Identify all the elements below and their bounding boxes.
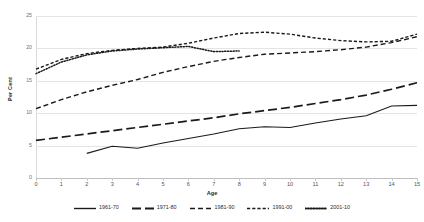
- series-line-1991-00: [36, 32, 417, 69]
- legend-label: 2001-10: [330, 205, 350, 210]
- legend-item-1961-70[interactable]: 1961-70: [74, 205, 119, 210]
- legend-label: 1971-80: [157, 205, 177, 210]
- legend-label: 1991-00: [272, 205, 292, 210]
- legend-swatch-icon: [132, 206, 154, 210]
- series-line-1981-90: [36, 37, 417, 109]
- series-line-2001-10: [36, 46, 239, 73]
- chart-legend: 1961-701971-801981-901991-002001-10: [0, 205, 424, 210]
- legend-item-2001-10[interactable]: 2001-10: [305, 205, 350, 210]
- legend-swatch-icon: [305, 206, 327, 210]
- legend-label: 1981-90: [215, 205, 235, 210]
- legend-item-1981-90[interactable]: 1981-90: [190, 205, 235, 210]
- legend-swatch-icon: [74, 206, 96, 210]
- legend-item-1971-80[interactable]: 1971-80: [132, 205, 177, 210]
- legend-swatch-icon: [247, 206, 269, 210]
- line-chart: 0510152025 0123456789101112131415 Per Ce…: [0, 0, 424, 222]
- series-plot: [0, 0, 424, 222]
- legend-label: 1961-70: [99, 205, 119, 210]
- series-line-1961-70: [87, 105, 417, 153]
- legend-swatch-icon: [190, 206, 212, 210]
- legend-item-1991-00[interactable]: 1991-00: [247, 205, 292, 210]
